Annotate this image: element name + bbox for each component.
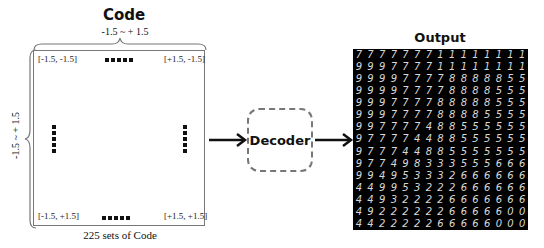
digit-cell: 1: [505, 49, 517, 61]
corner-bottom-right: [+1.5, +1.5]: [164, 211, 207, 221]
digit-cell: 4: [388, 158, 400, 170]
digit-cell: 9: [376, 85, 388, 97]
digit-cell: 9: [353, 73, 365, 85]
digit-cell: 6: [481, 170, 493, 182]
digit-cell: 6: [458, 218, 470, 230]
decoder-block: Decoder: [247, 108, 313, 172]
digit-cell: 7: [353, 49, 365, 61]
digit-cell: 6: [446, 206, 458, 218]
digit-cell: 5: [505, 146, 517, 158]
digit-cell: 9: [376, 61, 388, 73]
digit-cell: 1: [458, 49, 470, 61]
digit-cell: 8: [446, 85, 458, 97]
ellipsis-top-icon: [105, 58, 133, 62]
output-title: Output: [400, 30, 480, 45]
digit-cell: 5: [505, 73, 517, 85]
digit-cell: 8: [481, 85, 493, 97]
digit-cell: 4: [353, 194, 365, 206]
digit-cell: 4: [411, 133, 423, 145]
digit-cell: 6: [493, 170, 505, 182]
digit-cell: 2: [423, 218, 435, 230]
digit-cell: 7: [388, 146, 400, 158]
digit-cell: 0: [493, 218, 505, 230]
digit-cell: 9: [376, 182, 388, 194]
digit-cell: 6: [505, 158, 517, 170]
digit-cell: 9: [365, 85, 377, 97]
digit-cell: 5: [458, 146, 470, 158]
digit-cell: 4: [423, 133, 435, 145]
digit-cell: 1: [470, 61, 482, 73]
digit-cell: 5: [446, 146, 458, 158]
digit-cell: 6: [470, 218, 482, 230]
digit-cell: 5: [516, 109, 528, 121]
digit-cell: 7: [400, 85, 412, 97]
digit-cell: 6: [505, 182, 517, 194]
digit-cell: 4: [365, 218, 377, 230]
digit-cell: 6: [481, 182, 493, 194]
corner-top-left: [-1.5, -1.5]: [38, 54, 77, 64]
digit-cell: 1: [493, 49, 505, 61]
digit-cell: 9: [365, 170, 377, 182]
digit-cell: 7: [423, 97, 435, 109]
digit-cell: 5: [493, 146, 505, 158]
digit-cell: 7: [423, 85, 435, 97]
digit-cell: 9: [365, 73, 377, 85]
digit-cell: 7: [365, 158, 377, 170]
corner-top-right: [+1.5, -1.5]: [164, 54, 205, 64]
digit-cell: 2: [400, 206, 412, 218]
digit-cell: 7: [388, 49, 400, 61]
digit-cell: 4: [353, 206, 365, 218]
digit-cell: 5: [505, 121, 517, 133]
digit-cell: 2: [411, 218, 423, 230]
digit-cell: 3: [435, 170, 447, 182]
digit-cell: 7: [388, 109, 400, 121]
digit-cell: 7: [400, 61, 412, 73]
digit-cell: 7: [400, 133, 412, 145]
digit-cell: 6: [516, 182, 528, 194]
digit-cell: 0: [516, 218, 528, 230]
digit-cell: 9: [365, 97, 377, 109]
digit-cell: 6: [458, 182, 470, 194]
digit-cell: 5: [505, 109, 517, 121]
vertical-range-label: -1.5 ~ + 1.5: [10, 81, 21, 191]
digit-cell: 6: [481, 218, 493, 230]
digit-cell: 5: [493, 121, 505, 133]
digit-cell: 8: [470, 73, 482, 85]
digit-cell: 7: [411, 73, 423, 85]
digit-cell: 7: [388, 97, 400, 109]
digit-cell: 7: [376, 133, 388, 145]
digit-cell: 9: [365, 61, 377, 73]
digit-cell: 8: [481, 73, 493, 85]
digit-cell: 9: [376, 73, 388, 85]
digit-cell: 0: [505, 206, 517, 218]
digit-cell: 7: [400, 49, 412, 61]
digit-cell: 1: [435, 49, 447, 61]
digit-cell: 6: [470, 182, 482, 194]
digit-cell: 9: [353, 109, 365, 121]
digit-cell: 5: [470, 133, 482, 145]
digit-cell: 3: [435, 158, 447, 170]
digit-cell: 5: [505, 97, 517, 109]
digit-cell: 2: [411, 194, 423, 206]
digit-cell: 9: [353, 121, 365, 133]
digit-cell: 4: [376, 170, 388, 182]
digit-cell: 2: [388, 218, 400, 230]
digit-cell: 1: [458, 61, 470, 73]
digit-cell: 7: [376, 158, 388, 170]
digit-cell: 9: [353, 97, 365, 109]
digit-cell: 5: [470, 146, 482, 158]
digit-cell: 6: [505, 170, 517, 182]
digit-cell: 4: [353, 218, 365, 230]
digit-cell: 1: [446, 61, 458, 73]
digit-cell: 7: [423, 49, 435, 61]
digit-cell: 1: [435, 61, 447, 73]
digit-cell: 2: [400, 218, 412, 230]
digit-cell: 7: [388, 133, 400, 145]
corner-bottom-left: [-1.5, +1.5]: [38, 211, 79, 221]
digit-cell: 6: [493, 206, 505, 218]
digit-cell: 5: [516, 73, 528, 85]
digit-cell: 8: [446, 121, 458, 133]
digit-cell: 3: [423, 170, 435, 182]
digit-cell: 4: [365, 194, 377, 206]
digit-cell: 7: [400, 121, 412, 133]
